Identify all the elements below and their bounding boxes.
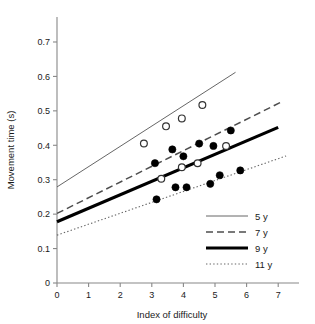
data-point: [163, 123, 170, 130]
y-axis-tick-label: 0.5: [37, 106, 50, 116]
data-point: [199, 102, 206, 109]
y-axis-tick-label: 0.4: [37, 141, 50, 151]
data-point: [194, 160, 201, 167]
y-axis-tick-label: 0.1: [37, 244, 50, 254]
data-point: [141, 140, 148, 147]
y-axis-tick-label: 0.2: [37, 209, 50, 219]
series-group: [57, 127, 278, 221]
y-axis-tick-label: 0.3: [37, 175, 50, 185]
data-point: [237, 167, 244, 174]
data-point: [196, 140, 203, 147]
legend-label: 5 y: [255, 211, 268, 222]
x-axis-tick-label: 6: [244, 290, 249, 300]
data-point: [178, 164, 185, 171]
legend-label: 7 y: [255, 227, 268, 238]
regression-line: [57, 127, 278, 221]
x-axis-tick-label: 2: [118, 290, 123, 300]
data-series-layer: [57, 72, 286, 235]
data-point: [169, 146, 176, 153]
scatter-plot: 00.10.20.30.40.50.60.701234567 5 y7 y9 y…: [0, 0, 315, 324]
data-point: [207, 180, 214, 187]
chart-figure: 00.10.20.30.40.50.60.701234567 5 y7 y9 y…: [0, 0, 315, 324]
data-point: [158, 175, 165, 182]
data-point: [153, 196, 160, 203]
data-point: [172, 184, 179, 191]
data-point: [223, 143, 230, 150]
y-axis-tick-label: 0.6: [37, 72, 50, 82]
legend-label: 9 y: [255, 243, 268, 254]
data-point: [183, 184, 190, 191]
x-axis-tick-label: 5: [212, 290, 217, 300]
data-point: [151, 160, 158, 167]
legend-label: 11 y: [255, 259, 273, 270]
y-axis-tick-label: 0.7: [37, 37, 50, 47]
x-axis-label: Index of difficulty: [137, 309, 208, 320]
y-axis-tick-label: 0: [45, 278, 50, 288]
chart-legend: 5 y7 y9 y11 y: [206, 211, 273, 270]
data-point: [210, 142, 217, 149]
x-axis-tick-label: 0: [54, 290, 59, 300]
x-axis-tick-label: 1: [86, 290, 91, 300]
y-axis-label: Movement time (s): [5, 111, 16, 190]
data-point: [216, 172, 223, 179]
data-point: [227, 127, 234, 134]
data-point: [178, 115, 185, 122]
x-axis-tick-label: 4: [181, 290, 186, 300]
data-point: [180, 153, 187, 160]
x-axis-tick-label: 7: [276, 290, 281, 300]
x-axis-tick-label: 3: [149, 290, 154, 300]
